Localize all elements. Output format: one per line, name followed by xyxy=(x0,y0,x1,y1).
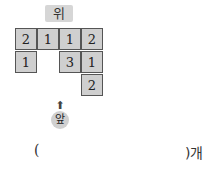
grid-cell: 1 xyxy=(37,28,59,50)
grid-cell: 1 xyxy=(15,51,37,73)
grid-cell: 3 xyxy=(59,51,81,73)
grid-cell: 2 xyxy=(15,28,37,50)
grid-cell: 1 xyxy=(59,28,81,50)
grid-cell: 2 xyxy=(81,74,103,96)
up-arrow-icon: ⬆ xyxy=(55,101,65,111)
grid-cell: 1 xyxy=(81,51,103,73)
grid-cell: 2 xyxy=(81,28,103,50)
front-label: 앞 xyxy=(51,111,69,129)
answer-close-unit: )개 xyxy=(185,142,203,162)
top-view-label: 위 xyxy=(45,5,73,22)
answer-open-paren: ( xyxy=(34,142,39,158)
